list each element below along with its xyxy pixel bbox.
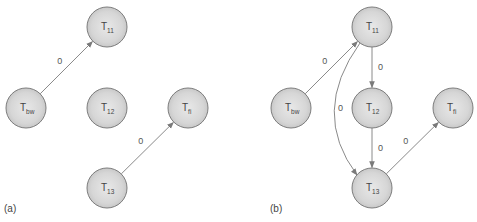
node-T11: T11 (87, 7, 127, 47)
edge-T12-T13: 0 (372, 128, 383, 168)
arrow-icon (305, 41, 357, 93)
node-Tbw: Tbw (6, 88, 46, 128)
edge-T13-Tfi: 0 (121, 122, 173, 174)
edge-weight-label: 0 (138, 136, 143, 146)
edge-T13-Tfi: 0 (386, 122, 438, 174)
panel-label: (b) (270, 203, 282, 214)
node-Tfi: Tfi (168, 88, 208, 128)
panel-b: 00000T11TbwT12TfiT13(b) (270, 7, 473, 214)
precedence-diagram: 00T11TbwT12TfiT13(a)00000T11TbwT12TfiT13… (0, 0, 477, 222)
edge-T11-T12: 0 (372, 47, 383, 88)
node-T11: T11 (352, 7, 392, 47)
node-Tbw: Tbw (271, 88, 311, 128)
node-T13: T13 (352, 168, 392, 208)
edge-weight-label: 0 (378, 143, 383, 153)
arrow-icon (386, 122, 438, 174)
arrow-icon (121, 122, 173, 174)
edge-Tbw-T11: 0 (40, 41, 92, 93)
arrow-icon (40, 41, 92, 93)
node-T12: T12 (352, 88, 392, 128)
edge-weight-label: 0 (57, 56, 62, 66)
node-T12: T12 (87, 88, 127, 128)
edge-weight-label: 0 (403, 136, 408, 146)
node-T13: T13 (87, 168, 127, 208)
panel-label: (a) (4, 203, 16, 214)
edge-Tbw-T11: 0 (305, 41, 357, 93)
edge-weight-label: 0 (378, 62, 383, 72)
node-Tfi: Tfi (433, 88, 473, 128)
edge-weight-label: 0 (338, 103, 343, 113)
edge-weight-label: 0 (322, 56, 327, 66)
panel-a: 00T11TbwT12TfiT13(a) (4, 7, 208, 214)
